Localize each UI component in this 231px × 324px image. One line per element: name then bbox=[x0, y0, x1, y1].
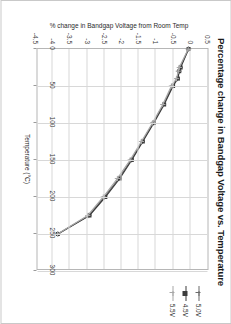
gridline-horizontal bbox=[137, 49, 138, 269]
x-axis-title: Temperature (°C) bbox=[23, 48, 30, 270]
y-axis-tick-label: -1.5 bbox=[135, 33, 142, 44]
series-line bbox=[57, 49, 188, 234]
x-axis-tick-label: 50 bbox=[48, 81, 55, 88]
x-axis-tick-mark bbox=[33, 48, 36, 49]
gridline-vertical bbox=[37, 123, 207, 124]
rotated-chart-container: Percentage change in Bandgap Voltage vs.… bbox=[0, 0, 231, 324]
gridline-horizontal bbox=[86, 49, 87, 269]
series-line bbox=[57, 49, 188, 234]
gridline-horizontal bbox=[120, 49, 121, 269]
gridline-vertical bbox=[37, 160, 207, 161]
legend-label: 4.5V bbox=[182, 304, 189, 317]
x-axis-tick-label: 300 bbox=[48, 265, 55, 276]
x-axis-tick-label: 150 bbox=[48, 154, 55, 165]
y-axis-tick-label: 0 bbox=[186, 40, 193, 44]
legend-marker-icon bbox=[194, 286, 202, 301]
y-axis-tick-label: 0.5 bbox=[204, 35, 211, 44]
x-axis-tick-mark bbox=[33, 270, 36, 271]
gridline-vertical bbox=[37, 234, 207, 235]
legend-item-5-0V[interactable]: 5.0V bbox=[194, 286, 202, 317]
y-axis-tick-label: -3 bbox=[83, 38, 90, 44]
gridline-horizontal bbox=[68, 49, 69, 269]
gridline-vertical bbox=[37, 197, 207, 198]
gridline-horizontal bbox=[172, 49, 173, 269]
x-axis-tick-label: 200 bbox=[48, 191, 55, 202]
x-axis-tick-mark bbox=[33, 122, 36, 123]
x-axis-tick-mark bbox=[33, 85, 36, 86]
gridline-horizontal bbox=[154, 49, 155, 269]
gridline-vertical bbox=[37, 86, 207, 87]
legend-marker-icon bbox=[181, 286, 189, 301]
legend-label: 5.0V bbox=[195, 304, 202, 317]
y-axis-tick-label: -0.5 bbox=[169, 33, 176, 44]
legend-label: 5.5V bbox=[169, 304, 176, 317]
x-axis-tick-label: 0 bbox=[48, 46, 55, 50]
y-axis-title: % change in Bandgap Voltage from Room Te… bbox=[29, 22, 209, 29]
chart-title: Percentage change in Bandgap Voltage vs.… bbox=[215, 1, 226, 323]
y-axis-tick-label: -4.5 bbox=[32, 33, 39, 44]
legend-marker-icon bbox=[168, 286, 176, 301]
legend-item-5-5V[interactable]: 5.5V bbox=[168, 286, 176, 317]
x-axis-tick-mark bbox=[33, 233, 36, 234]
y-axis-tick-label: -3.5 bbox=[66, 33, 73, 44]
gridline-horizontal bbox=[189, 49, 190, 269]
gridline-horizontal bbox=[103, 49, 104, 269]
plot-area: 0.50-0.5-1-1.5-2-2.5-3-3.5-4-4.5 bbox=[36, 48, 208, 270]
series-line bbox=[57, 49, 188, 234]
screenshot-frame: Percentage change in Bandgap Voltage vs.… bbox=[0, 0, 231, 324]
x-axis-tick-label: 100 bbox=[48, 117, 55, 128]
x-axis-tick-mark bbox=[33, 196, 36, 197]
legend-item-4-5V[interactable]: 4.5V bbox=[181, 286, 189, 317]
x-axis-tick-mark bbox=[33, 159, 36, 160]
chart-canvas: Percentage change in Bandgap Voltage vs.… bbox=[0, 0, 231, 324]
gridline-vertical bbox=[37, 271, 207, 272]
chart-legend: 5.0V4.5V5.5V bbox=[168, 286, 202, 317]
y-axis-tick-label: -1 bbox=[152, 38, 159, 44]
y-axis-tick-label: -2.5 bbox=[100, 33, 107, 44]
y-axis-tick-label: -2 bbox=[118, 38, 125, 44]
y-axis-tick-label: -4 bbox=[49, 38, 56, 44]
x-axis-tick-label: 250 bbox=[48, 228, 55, 239]
